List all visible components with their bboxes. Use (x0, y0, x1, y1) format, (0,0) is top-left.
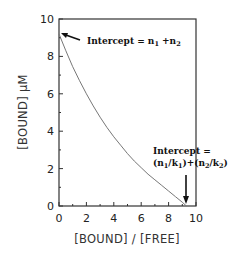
x-tick-label: 6 (138, 212, 145, 225)
arrow-head-icon (61, 33, 68, 38)
y-axis-label: [BOUND] μM (16, 74, 30, 149)
annotation-top-text: Intercept = n1 +n2 (87, 36, 181, 48)
scatchard-chart: 0246810 0246810 Intercept = n1 +n2 Inter… (0, 0, 249, 255)
x-axis-label: [BOUND] / [FREE] (74, 232, 180, 246)
annotation-bottom-line2: (n1/k1)+(n2/k2) (153, 158, 228, 170)
arrow-head-icon (183, 196, 189, 204)
x-tick-label: 0 (56, 212, 63, 225)
x-tick-label: 8 (165, 212, 172, 225)
y-tick-label: 2 (47, 163, 54, 176)
x-tick-label: 2 (83, 212, 90, 225)
annotation-top-intercept: Intercept = n1 +n2 (61, 33, 181, 48)
data-curve (59, 34, 186, 206)
y-tick-label: 4 (47, 125, 54, 138)
annotation-bottom-intercept: Intercept = (n1/k1)+(n2/k2) (153, 146, 228, 204)
y-tick-label: 6 (47, 88, 54, 101)
y-tick-label: 0 (47, 200, 54, 213)
y-tick-label: 8 (47, 50, 54, 63)
x-tick-label: 4 (110, 212, 117, 225)
annotation-bottom-line1: Intercept = (153, 146, 211, 156)
y-tick-label: 10 (40, 13, 54, 26)
x-tick-label: 10 (189, 212, 203, 225)
